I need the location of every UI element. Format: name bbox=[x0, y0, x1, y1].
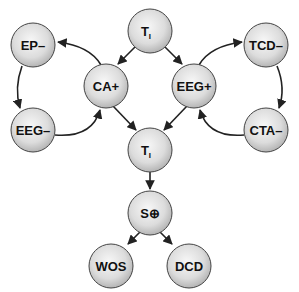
edge-s-to-wos bbox=[128, 232, 140, 244]
edge-ti-top-to-eeg-pos bbox=[165, 47, 182, 64]
node-label: EEG– bbox=[16, 123, 51, 138]
node-ti-mid: TI bbox=[128, 128, 172, 172]
flow-diagram: TI EP– TCD– CA+ EEG+ EEG– CTA– TI bbox=[0, 0, 299, 292]
node-label: WOS bbox=[95, 259, 126, 274]
node-label: T bbox=[141, 143, 149, 158]
edge-ca-to-ep bbox=[58, 42, 101, 65]
edge-eeg-neg-to-ca bbox=[55, 110, 100, 135]
edge-tcd-to-cta bbox=[277, 66, 282, 108]
node-ti-top: TI bbox=[128, 9, 172, 53]
edge-s-to-dcd bbox=[160, 232, 172, 244]
node-ep-neg: EP– bbox=[11, 23, 55, 67]
node-label: EP– bbox=[21, 38, 46, 53]
node-cta-neg: CTA– bbox=[244, 108, 288, 152]
node-label: CTA– bbox=[250, 123, 283, 138]
node-label: T bbox=[141, 24, 149, 39]
node-wos: WOS bbox=[89, 244, 133, 288]
node-tcd-neg: TCD– bbox=[244, 23, 288, 67]
node-dcd: DCD bbox=[167, 244, 211, 288]
edge-ti-top-to-ca bbox=[118, 47, 135, 64]
edge-eeg-pos-to-tcd bbox=[199, 42, 242, 65]
node-label: DCD bbox=[175, 259, 203, 274]
svg-text:S⊕: S⊕ bbox=[140, 206, 160, 221]
node-label: TCD– bbox=[249, 38, 283, 53]
node-subscript: I bbox=[149, 32, 151, 41]
edge-eeg-pos-to-ti-mid bbox=[164, 106, 187, 130]
node-label: CA+ bbox=[93, 79, 120, 94]
node-eeg-pos: EEG+ bbox=[172, 64, 216, 108]
node-label: EEG+ bbox=[176, 79, 211, 94]
node-s-pos: S⊕ bbox=[128, 191, 172, 235]
edge-ep-to-eeg-neg bbox=[17, 66, 22, 108]
node-subscript: I bbox=[149, 151, 151, 160]
circled-plus-icon: ⊕ bbox=[149, 206, 160, 221]
node-eeg-neg: EEG– bbox=[11, 108, 55, 152]
edge-ca-to-ti-mid bbox=[113, 106, 136, 130]
edge-cta-to-eeg-pos bbox=[200, 110, 244, 135]
node-ca-pos: CA+ bbox=[84, 64, 128, 108]
node-label: S bbox=[140, 206, 149, 221]
nodes: TI EP– TCD– CA+ EEG+ EEG– CTA– TI bbox=[11, 9, 288, 288]
